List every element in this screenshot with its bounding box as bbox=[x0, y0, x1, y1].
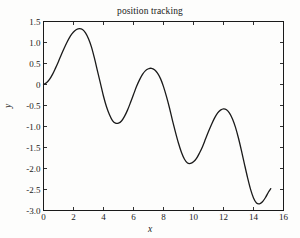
x-tick-label: 0 bbox=[41, 213, 46, 222]
figure-container: position tracking x y 0246810121416 1.51… bbox=[0, 0, 300, 238]
x-axis-label: x bbox=[0, 225, 300, 235]
y-axis-label: y bbox=[4, 104, 14, 108]
y-tick-label: -0.5 bbox=[14, 101, 41, 110]
y-tick-label: -2.0 bbox=[14, 164, 41, 173]
x-tick-label: 8 bbox=[161, 213, 166, 222]
x-tick-label: 12 bbox=[219, 213, 228, 222]
y-tick-label: 0 bbox=[14, 80, 41, 89]
x-tick-label: 10 bbox=[189, 213, 198, 222]
x-tick-label: 16 bbox=[279, 213, 288, 222]
x-tick-label: 2 bbox=[71, 213, 76, 222]
x-tick-label: 6 bbox=[131, 213, 136, 222]
y-tick-label: -2.5 bbox=[14, 185, 41, 194]
x-tick-label: 4 bbox=[101, 213, 106, 222]
x-tick-label: 14 bbox=[249, 213, 258, 222]
chart-title: position tracking bbox=[0, 7, 300, 17]
y-tick-label: 1.0 bbox=[14, 38, 41, 47]
y-tick-label: -1.5 bbox=[14, 143, 41, 152]
y-tick-label: -1.0 bbox=[14, 122, 41, 131]
chart-canvas bbox=[0, 0, 300, 238]
y-tick-label: 1.5 bbox=[14, 17, 41, 26]
y-tick-label: 0.5 bbox=[14, 59, 41, 68]
y-tick-label: -3.0 bbox=[14, 206, 41, 215]
figure-background bbox=[0, 0, 300, 238]
